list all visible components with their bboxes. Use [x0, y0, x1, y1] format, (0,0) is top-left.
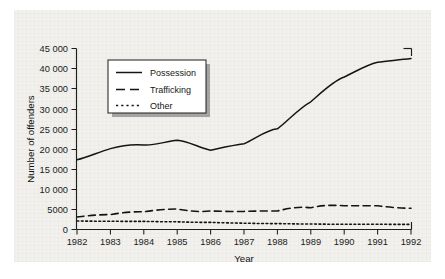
legend-label-possession: Possession — [150, 68, 196, 78]
x-tick-label: 1987 — [234, 237, 255, 247]
x-tick-labels: 1982 1983 1984 1985 1986 1987 1988 1989 … — [67, 237, 422, 247]
y-tick-label: 40 000 — [40, 64, 68, 74]
x-tick-label: 1984 — [133, 237, 154, 247]
x-tick-label: 1985 — [167, 237, 188, 247]
other-line — [77, 221, 411, 224]
y-tick-label: 20 000 — [40, 145, 68, 155]
y-tick-label: 15 000 — [40, 165, 68, 175]
line-chart: 0 5000 10 000 15 000 20 000 25 000 30 00… — [0, 0, 445, 279]
x-tick-label: 1982 — [67, 237, 88, 247]
series-trafficking — [77, 205, 411, 217]
legend-label-trafficking: Trafficking — [150, 85, 191, 95]
y-tick-label: 25 000 — [40, 125, 68, 135]
y-tick-marks — [72, 49, 77, 230]
y-tick-label: 45 000 — [40, 44, 68, 54]
x-tick-label: 1989 — [300, 237, 321, 247]
x-tick-label: 1992 — [401, 237, 422, 247]
y-tick-label: 35 000 — [40, 84, 68, 94]
x-tick-label: 1986 — [200, 237, 221, 247]
x-tick-label: 1990 — [334, 237, 355, 247]
legend: Possession Trafficking Other — [108, 60, 210, 117]
legend-label-other: Other — [150, 101, 173, 111]
trafficking-line — [77, 205, 411, 217]
y-tick-label: 30 000 — [40, 105, 68, 115]
y-tick-labels: 0 5000 10 000 15 000 20 000 25 000 30 00… — [40, 44, 68, 235]
y-tick-label: 0 — [63, 225, 68, 235]
x-axis-title: Year — [234, 253, 254, 264]
x-tick-marks — [77, 230, 411, 235]
x-tick-label: 1983 — [100, 237, 121, 247]
x-tick-label: 1988 — [267, 237, 288, 247]
right-axis-stub — [404, 49, 412, 230]
x-tick-label: 1991 — [367, 237, 388, 247]
y-tick-label: 10 000 — [40, 185, 68, 195]
y-axis-title: Number of offenders — [25, 95, 36, 182]
y-tick-label: 5000 — [47, 205, 68, 215]
chart-page: 0 5000 10 000 15 000 20 000 25 000 30 00… — [0, 0, 445, 279]
series-other — [77, 221, 411, 224]
